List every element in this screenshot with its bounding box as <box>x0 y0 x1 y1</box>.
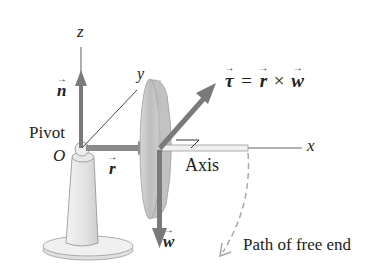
r-vector-label: r <box>109 160 116 177</box>
axis-label: Axis <box>185 156 219 174</box>
z-axis-label: z <box>77 23 84 40</box>
pivot-label: Pivot <box>29 124 65 141</box>
n-symbol: n <box>57 82 66 99</box>
origin-label: O <box>53 147 65 164</box>
y-axis-label: y <box>137 66 144 82</box>
y-axis-line <box>82 90 137 148</box>
r-symbol: r <box>109 160 116 177</box>
w-symbol-eq: w <box>291 71 304 90</box>
w-vector-label: w <box>163 233 174 250</box>
path-label: Path of free end <box>243 236 351 253</box>
torque-equation: τ = r × w <box>225 71 304 90</box>
x-axis-label: x <box>307 137 315 154</box>
equals-sign: = <box>241 70 252 91</box>
cross-sign: × <box>274 70 285 91</box>
n-vector-label: n <box>57 82 66 99</box>
w-symbol: w <box>163 233 174 250</box>
r-symbol-eq: r <box>260 71 267 90</box>
n-vector-arrow <box>75 70 87 148</box>
axis-rod <box>162 145 248 151</box>
tau-symbol: τ <box>225 71 233 90</box>
